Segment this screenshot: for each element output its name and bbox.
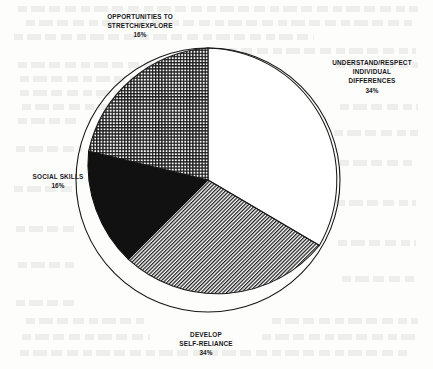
pie-label-line: SOCIAL SKILLS (33, 173, 84, 180)
pie-label-line: DEVELOP (190, 331, 222, 338)
pie-label-understand-respect-individual-differences: UNDERSTAND/RESPECT INDIVIDUAL DIFFERENCE… (312, 58, 432, 95)
pie-label-line: STRETCH/EXPLORE (107, 22, 172, 29)
pie-label-social-skills: SOCIAL SKILLS 16% (4, 172, 112, 190)
pie-label-develop-self-reliance: DEVELOP SELF-RELIANCE 34% (152, 330, 260, 358)
pie-label-line: UNDERSTAND/RESPECT (332, 59, 411, 66)
pie-label-line: OPPORTUNITIES TO (107, 13, 173, 20)
pie-label-percent: 34% (152, 348, 260, 357)
pie-label-percent: 16% (4, 181, 112, 190)
pie-label-opportunities-to-stretch-explore: OPPORTUNITIES TO STRETCH/EXPLORE 16% (72, 12, 208, 40)
pie-label-line: INDIVIDUAL (353, 68, 391, 75)
pie-label-percent: 16% (72, 30, 208, 39)
pie-label-line: SELF-RELIANCE (179, 340, 232, 347)
pie-label-line: DIFFERENCES (348, 77, 395, 84)
pie-label-percent: 34% (312, 86, 432, 95)
pie-chart-page: OPPORTUNITIES TO STRETCH/EXPLORE 16% UND… (0, 0, 433, 369)
